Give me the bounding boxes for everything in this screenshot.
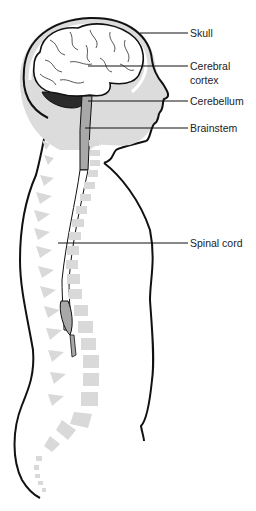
label-spinal-cord: Spinal cord bbox=[190, 237, 243, 249]
cauda-equina bbox=[60, 301, 72, 335]
filum-terminale bbox=[70, 335, 76, 357]
label-cerebral-cortex-line2: cortex bbox=[190, 74, 219, 86]
label-cerebellum: Cerebellum bbox=[190, 95, 244, 107]
label-skull: Skull bbox=[190, 27, 213, 39]
label-brainstem: Brainstem bbox=[190, 122, 237, 134]
label-cerebral-cortex-line1: Cerebral bbox=[190, 60, 230, 72]
chest-outline bbox=[104, 163, 153, 441]
back-outline bbox=[15, 118, 49, 498]
cns-diagram: Skull Cerebral cortex Cerebellum Brainst… bbox=[0, 0, 256, 511]
